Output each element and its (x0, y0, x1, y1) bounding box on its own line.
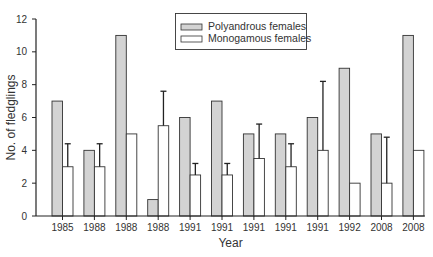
y-tick-label: 0 (21, 211, 27, 222)
y-tick-label: 2 (21, 178, 27, 189)
bar-polyandrous (403, 35, 414, 216)
bar-polyandrous (275, 134, 286, 216)
bar-monogamous (158, 126, 169, 216)
x-tick-label: 1985 (51, 222, 74, 233)
legend-swatch-polyandrous (181, 24, 202, 30)
bar-polyandrous (52, 101, 63, 216)
bar-monogamous (413, 150, 424, 216)
legend-label-polyandrous: Polyandrous females (208, 20, 306, 32)
bar-monogamous (63, 167, 74, 216)
y-tick-label: 10 (16, 46, 28, 57)
x-tick-label: 1991 (211, 222, 234, 233)
y-tick-label: 4 (21, 145, 27, 156)
bar-monogamous (382, 183, 393, 216)
bar-monogamous (94, 167, 105, 216)
bar-monogamous (350, 183, 361, 216)
bar-polyandrous (116, 35, 127, 216)
bar-polyandrous (371, 134, 382, 216)
x-tick-label: 1991 (179, 222, 202, 233)
x-tick-label: 1991 (243, 222, 266, 233)
bar-monogamous (318, 150, 329, 216)
x-tick-label: 1988 (115, 222, 138, 233)
bar-polyandrous (339, 68, 350, 216)
bar-polyandrous (84, 150, 95, 216)
x-tick-label: 1988 (83, 222, 106, 233)
bar-monogamous (126, 134, 137, 216)
x-tick-label: 2008 (402, 222, 425, 233)
x-tick-label: 2008 (370, 222, 393, 233)
y-tick-label: 8 (21, 79, 27, 90)
x-tick-label: 1988 (147, 222, 170, 233)
bar-monogamous (190, 175, 201, 216)
x-tick-label: 1991 (275, 222, 298, 233)
y-axis-label: No. of fledglings (4, 74, 18, 160)
x-tick-label: 1992 (338, 222, 361, 233)
y-tick-label: 12 (16, 14, 28, 25)
bar-monogamous (222, 175, 233, 216)
bar-chart: 0246810121985198819881988199119911991199… (0, 0, 433, 257)
y-tick-label: 6 (21, 112, 27, 123)
bar-monogamous (286, 167, 297, 216)
bar-polyandrous (307, 118, 318, 217)
bar-polyandrous (148, 200, 159, 216)
bar-polyandrous (212, 101, 223, 216)
bar-polyandrous (243, 134, 254, 216)
legend-label-monogamous: Monogamous females (208, 32, 311, 44)
x-tick-label: 1991 (307, 222, 330, 233)
bar-polyandrous (180, 118, 191, 217)
legend-swatch-monogamous (181, 36, 202, 42)
x-axis-label: Year (218, 236, 242, 250)
bar-monogamous (254, 159, 265, 216)
